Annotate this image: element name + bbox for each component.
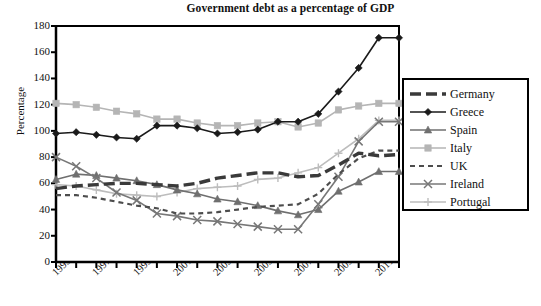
legend-item-italy[interactable]: Italy: [408, 139, 527, 157]
legend-item-ireland[interactable]: Ireland: [408, 175, 527, 193]
data-marker-square: [234, 122, 240, 128]
legend-swatch-greece: [408, 105, 448, 119]
legend-swatch-portugal: [408, 195, 448, 209]
data-marker-square: [73, 101, 79, 107]
legend-label: Portugal: [450, 196, 491, 208]
data-marker-square: [425, 145, 431, 151]
legend-swatch-italy: [408, 141, 448, 155]
legend-item-germany[interactable]: Germany: [408, 85, 527, 103]
legend-label: Germany: [450, 88, 495, 100]
data-marker-square: [255, 120, 261, 126]
legend-label: Ireland: [450, 178, 484, 190]
legend-swatch-germany: [408, 87, 448, 101]
data-marker-square: [355, 103, 361, 109]
legend-label: Spain: [450, 124, 477, 136]
legend-label: UK: [450, 160, 467, 172]
data-marker-square: [93, 104, 99, 110]
data-marker-square: [335, 107, 341, 113]
data-marker-square: [154, 116, 160, 122]
data-marker-plus: [424, 198, 432, 206]
data-marker-square: [376, 100, 382, 106]
legend-item-portugal[interactable]: Portugal: [408, 193, 527, 211]
legend-swatch-spain: [408, 123, 448, 137]
legend-label: Greece: [450, 106, 484, 118]
legend-item-spain[interactable]: Spain: [408, 121, 527, 139]
data-marker-diamond: [424, 108, 431, 115]
data-marker-square: [113, 108, 119, 114]
chart-legend: GermanyGreeceSpainItalyUKIrelandPortugal: [402, 78, 529, 211]
plot-frame: [56, 26, 399, 262]
legend-item-greece[interactable]: Greece: [408, 103, 527, 121]
data-marker-square: [134, 111, 140, 117]
legend-label: Italy: [450, 142, 472, 154]
data-marker-square: [174, 116, 180, 122]
data-marker-square: [315, 120, 321, 126]
legend-item-uk[interactable]: UK: [408, 157, 527, 175]
data-marker-square: [53, 100, 59, 106]
legend-swatch-uk: [408, 159, 448, 173]
data-marker-square: [214, 122, 220, 128]
chart-canvas: Government debt as a percentage of GDP P…: [0, 0, 541, 306]
legend-swatch-ireland: [408, 177, 448, 191]
